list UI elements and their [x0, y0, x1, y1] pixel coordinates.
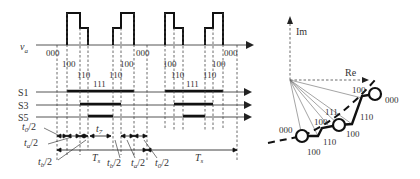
s5-arrow — [244, 113, 252, 121]
vector-state-label: 110 — [323, 137, 337, 147]
t7-label: t7 — [96, 123, 103, 136]
tb-half-label-left: tb/2 — [38, 156, 52, 169]
state-label: 110 — [171, 70, 185, 80]
state-label: 110 — [109, 70, 123, 80]
state-label: 111 — [93, 79, 106, 89]
state-marker — [296, 130, 308, 142]
vector-state-label: 000 — [385, 95, 399, 105]
va-axis-arrow — [246, 41, 254, 49]
va-waveform — [67, 13, 223, 45]
va-label: va — [20, 41, 28, 55]
state-label: 100 — [163, 59, 177, 69]
state-label: 100 — [120, 59, 134, 69]
s3-label: S3 — [18, 100, 29, 111]
vector-diagram: Im Re 000 100 100 111 110 100 110 100 00… — [268, 16, 399, 157]
timing-diagram: va S1 S3 S5 — [18, 13, 254, 170]
state-label: 110 — [203, 70, 217, 80]
s1-label: S1 — [18, 87, 29, 98]
state-label: 000 — [136, 48, 150, 58]
vector-state-label: 100 — [352, 85, 366, 95]
state-label: 100 — [62, 59, 76, 69]
ts-label-1: Ts — [92, 152, 101, 165]
vector-state-label: 111 — [325, 107, 338, 117]
s3-arrow — [244, 101, 252, 109]
s1-arrow — [244, 88, 252, 96]
t0-half-label: t0/2 — [22, 121, 36, 134]
ts-label-2: Ts — [195, 152, 204, 165]
state-marker — [369, 88, 381, 100]
vector-state-label: 110 — [360, 112, 374, 122]
state-label: 000 — [46, 48, 60, 58]
im-label: Im — [296, 26, 307, 37]
svpwm-diagram: va S1 S3 S5 — [0, 0, 420, 179]
state-label: 000 — [224, 48, 238, 58]
state-marker — [333, 119, 345, 131]
vector-state-label: 100 — [307, 147, 321, 157]
state-label: 111 — [186, 79, 199, 89]
ta-half-label: ta/2 — [24, 137, 38, 150]
t0-half-label-right: t0/2 — [155, 157, 169, 170]
re-axis-arrow — [362, 77, 369, 83]
ta-half-label-right: ta/2 — [131, 157, 145, 170]
im-axis-arrow — [287, 16, 293, 24]
state-label: 110 — [77, 70, 91, 80]
vector-state-label: 100 — [314, 117, 328, 127]
state-label: 100 — [212, 59, 226, 69]
vector-state-label: 100 — [346, 129, 360, 139]
tb-half-label-right: tb/2 — [107, 157, 121, 170]
re-label: Re — [345, 67, 357, 78]
vector-state-label: 000 — [279, 125, 293, 135]
